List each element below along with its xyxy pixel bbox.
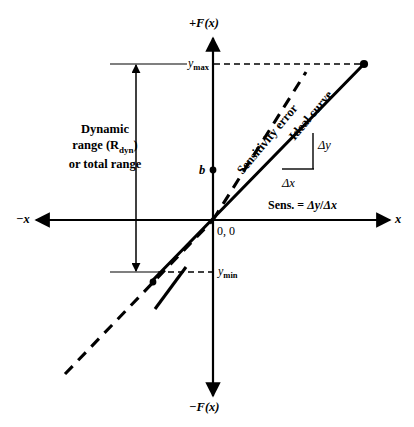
sensitivity-formula-denominator: Δx xyxy=(323,198,337,212)
ymin-label: ymin xyxy=(218,265,238,281)
x-axis-negative-label: −x xyxy=(16,212,30,226)
x-axis-positive-label: x xyxy=(395,212,401,226)
dynamic-range-label: Dynamic range (Rdyn) or total range xyxy=(51,121,159,173)
dynamic-range-line-3: or total range xyxy=(51,156,159,172)
intercept-label: b xyxy=(199,163,205,177)
ymin-label-sub: min xyxy=(223,270,237,280)
sensitivity-formula: Sens. = Δy/Δx xyxy=(268,199,337,212)
transfer-function-diagram: +F(x) −F(x) x −x 0, 0 ymax ymin b Dynami… xyxy=(0,0,414,427)
dynamic-range-line-2-post: ) xyxy=(134,138,138,152)
ideal-curve xyxy=(150,60,369,286)
dynamic-range-line-2-sub: dyn xyxy=(119,145,134,155)
sensitivity-formula-numerator: Δy xyxy=(307,198,320,212)
ymax-label: ymax xyxy=(188,57,209,73)
dynamic-range-line-1: Dynamic xyxy=(51,121,159,137)
origin-label: 0, 0 xyxy=(217,225,235,238)
sensitivity-formula-pre: Sens. = xyxy=(268,198,307,212)
dynamic-range-line-2: range (Rdyn) xyxy=(51,137,159,156)
intercept-dot xyxy=(210,167,217,174)
ymax-label-sub: max xyxy=(193,62,209,72)
delta-x-label: Δx xyxy=(282,176,295,190)
y-axis-positive-label: +F(x) xyxy=(189,16,219,30)
sensitivity-error-curve xyxy=(65,72,306,374)
delta-y-label: Δy xyxy=(318,138,331,152)
y-axis-negative-label: −F(x) xyxy=(189,400,220,414)
dynamic-range-line-2-pre: range (R xyxy=(72,138,119,152)
